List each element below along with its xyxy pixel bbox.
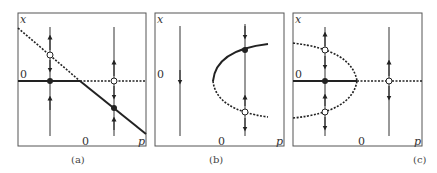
panel-b-frame bbox=[155, 13, 284, 146]
panel-c-y-label: x bbox=[295, 13, 302, 26]
panel-a-frame bbox=[18, 13, 146, 146]
unstable-point-icon bbox=[242, 109, 248, 115]
stable-point-icon bbox=[322, 78, 328, 84]
panel-c-zero-x: 0 bbox=[358, 135, 365, 148]
panel-c-caption: (c) bbox=[413, 154, 427, 165]
panel-b-x-label: p bbox=[276, 135, 283, 148]
panel-b-zero-y: 0 bbox=[157, 68, 164, 81]
panel-a-caption: (a) bbox=[71, 154, 85, 165]
unstable-branch bbox=[213, 81, 268, 117]
bifurcation-figure: x 0 0 p (a) x 0 0 p bbox=[0, 0, 437, 173]
panel-c-zero-y: 0 bbox=[295, 68, 302, 81]
stable-branch bbox=[213, 44, 268, 81]
unstable-point-icon bbox=[322, 47, 328, 53]
panel-a-zero-x: 0 bbox=[82, 135, 89, 148]
panel-c: x 0 0 p (c) bbox=[293, 13, 427, 165]
panel-b-caption: (b) bbox=[209, 154, 223, 165]
panel-b-zero-x: 0 bbox=[218, 135, 225, 148]
panel-b: x 0 0 p (b) bbox=[155, 13, 284, 165]
stable-point-icon bbox=[47, 78, 53, 84]
unstable-point-icon bbox=[386, 78, 392, 84]
panel-a: x 0 0 p (a) bbox=[18, 13, 146, 165]
panel-a-y-label: x bbox=[20, 13, 27, 26]
unstable-point-icon bbox=[47, 52, 53, 58]
panel-c-x-label: p bbox=[414, 135, 421, 148]
unstable-point-icon bbox=[322, 109, 328, 115]
panel-a-x-label: p bbox=[138, 135, 145, 148]
stable-point-icon bbox=[242, 47, 248, 53]
unstable-point-icon bbox=[111, 78, 117, 84]
panel-a-zero-y: 0 bbox=[20, 68, 27, 81]
panel-b-y-label: x bbox=[157, 13, 164, 26]
stable-point-icon bbox=[111, 105, 117, 111]
